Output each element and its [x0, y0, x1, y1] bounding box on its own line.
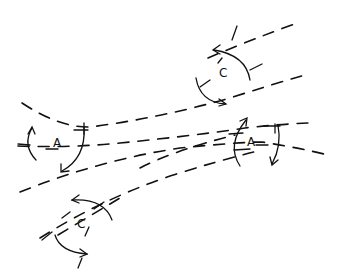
- tick-mark: [218, 58, 222, 63]
- tick-mark: [229, 133, 243, 134]
- cyclone-label: C: [77, 218, 85, 230]
- tick-mark: [250, 64, 262, 70]
- cyclone-bottom-circulation: [42, 195, 112, 268]
- flow-lines: [18, 22, 328, 238]
- flow-line: [208, 22, 300, 58]
- tick-mark: [62, 212, 70, 218]
- arrowhead-up-icon: [28, 127, 35, 134]
- tick-mark: [85, 227, 89, 236]
- tick-mark: [200, 80, 210, 87]
- flow-line: [140, 135, 235, 168]
- cyclone-label: C: [219, 67, 227, 79]
- anticyclone-label: A: [247, 136, 255, 148]
- flow-line: [20, 142, 328, 192]
- flow-line: [22, 75, 305, 127]
- anticyclone-label: A: [53, 137, 61, 149]
- tick-mark: [234, 149, 250, 150]
- diagram-canvas: A A C C: [0, 0, 344, 280]
- arrowhead-left-icon: [213, 45, 220, 54]
- diagram-svg: [0, 0, 344, 280]
- circulation-arc-icon: [62, 127, 84, 171]
- arrowhead-left-icon: [72, 195, 79, 203]
- cyclone-top-circulation: [196, 26, 262, 106]
- tick-mark: [232, 26, 237, 40]
- tick-mark: [78, 258, 82, 268]
- arrowhead-up-icon: [240, 118, 247, 126]
